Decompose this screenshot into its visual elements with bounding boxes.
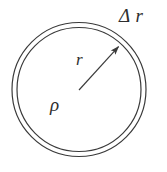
thickness-label: Δ r bbox=[119, 6, 143, 25]
figure-canvas: Δ r r ρ bbox=[0, 0, 167, 172]
radius-label: r bbox=[76, 51, 83, 68]
density-label: ρ bbox=[50, 95, 59, 114]
radius-arrow bbox=[79, 47, 119, 90]
